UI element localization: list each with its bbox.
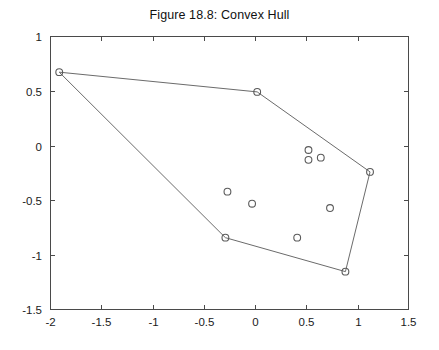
x-tick-label: 0.5	[299, 316, 315, 328]
data-point	[305, 156, 312, 163]
y-axis-ticks	[50, 37, 409, 310]
x-tick-label: 0	[252, 316, 258, 328]
data-point	[327, 205, 334, 212]
x-tick-label: -1	[148, 316, 158, 328]
data-point	[249, 200, 256, 207]
scatter-plot-canvas	[50, 36, 409, 310]
data-point	[305, 147, 312, 154]
hull-outline	[59, 72, 370, 271]
x-tick-label: 1.5	[401, 316, 417, 328]
figure-container: Figure 18.8: Convex Hull -2-1.5-1-0.500.…	[0, 0, 439, 350]
y-tick-label: -1.5	[4, 304, 42, 316]
y-tick-label: 0	[4, 141, 42, 153]
axes-frame	[51, 37, 409, 310]
y-tick-label: -1	[4, 250, 42, 262]
x-tick-label: 1	[355, 316, 361, 328]
plot-area: -2-1.5-1-0.500.511.5 -1.5-1-0.500.51	[50, 36, 409, 310]
data-points-group	[56, 69, 374, 275]
data-point	[294, 234, 301, 241]
page-title: Figure 18.8: Convex Hull	[0, 8, 439, 22]
y-tick-label: 0.5	[4, 86, 42, 98]
data-point	[224, 188, 231, 195]
y-tick-label: -0.5	[4, 195, 42, 207]
x-tick-label: -0.5	[195, 316, 215, 328]
data-point	[317, 154, 324, 161]
x-tick-label: -1.5	[92, 316, 112, 328]
axes-box	[51, 37, 409, 310]
convex-hull-polygon	[59, 72, 370, 271]
y-tick-label: 1	[4, 31, 42, 43]
x-tick-label: -2	[45, 316, 55, 328]
